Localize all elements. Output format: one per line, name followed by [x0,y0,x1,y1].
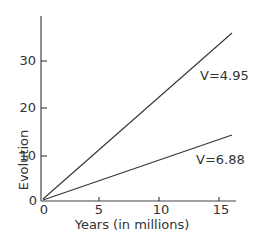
x-axis-label: Years (in millions) [74,217,190,232]
x-tick-label: 10 [153,202,170,217]
y-tick-label: 0 [29,193,37,208]
x-tick-label: 15 [213,202,230,217]
series-lines [43,33,232,200]
y-tick-label: 20 [19,100,36,115]
chart: 30 20 10 0 0 5 10 15 Years (in millions)… [0,0,259,243]
line-v688 [43,135,232,200]
x-tick-label: 0 [40,202,48,217]
axes [41,16,236,201]
x-tick-label: 5 [95,202,103,217]
y-axis-label: Evolution [16,130,31,191]
line-v495 [43,33,232,199]
y-tick-label: 30 [19,53,36,68]
series-label-v688: V=6.88 [196,152,245,167]
series-label-v495: V=4.95 [200,68,249,83]
